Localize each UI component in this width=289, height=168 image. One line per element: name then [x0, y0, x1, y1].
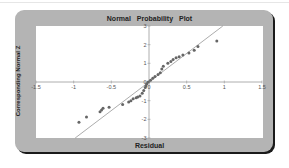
x-tick-label: -1.5 — [31, 84, 40, 90]
y-tick-label: 2 — [143, 42, 146, 48]
data-point — [77, 121, 80, 124]
data-point — [141, 92, 144, 95]
data-point — [85, 115, 88, 118]
data-point — [142, 89, 145, 92]
data-point — [196, 45, 199, 48]
data-point — [121, 103, 124, 106]
data-point — [154, 75, 157, 78]
y-tick-label: -2 — [142, 116, 147, 122]
data-point — [108, 106, 111, 109]
data-point — [187, 52, 190, 55]
data-point — [159, 71, 162, 74]
y-tick-label: 3 — [143, 23, 146, 29]
data-point — [175, 56, 178, 59]
data-point — [178, 55, 181, 58]
data-point — [166, 62, 169, 65]
y-tick-label: 1 — [143, 60, 146, 66]
scatter-plot: -1.5-1-0.500.511.53210-1-2-3 — [0, 0, 289, 168]
data-point — [172, 58, 175, 61]
data-point — [138, 95, 141, 98]
data-point — [160, 67, 163, 70]
data-point — [162, 65, 165, 68]
x-tick-label: 0.5 — [183, 84, 191, 90]
x-tick-label: -0.5 — [107, 84, 116, 90]
data-point — [102, 107, 105, 110]
x-tick-label: 1.5 — [258, 84, 266, 90]
x-tick-label: 0 — [147, 84, 150, 90]
y-tick-label: -3 — [142, 135, 147, 141]
x-tick-label: -1 — [71, 84, 76, 90]
data-point — [132, 97, 135, 100]
x-tick-label: 1 — [223, 84, 226, 90]
data-point — [215, 39, 218, 42]
data-point — [181, 53, 184, 56]
y-tick-label: -1 — [142, 98, 147, 104]
data-point — [193, 49, 196, 52]
